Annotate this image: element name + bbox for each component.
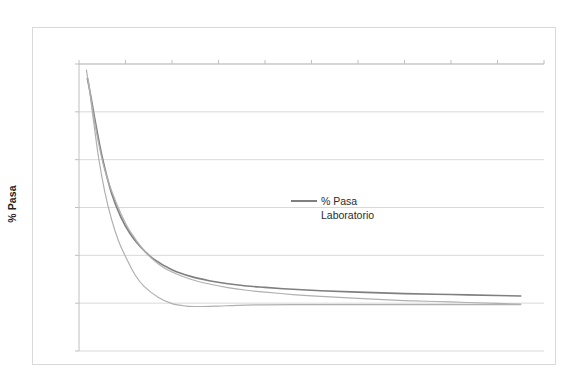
data-series-paths [86, 70, 520, 307]
legend-entry: % Pasa [291, 194, 401, 208]
legend-label-line2: Laboratorio [291, 208, 401, 222]
series-line-envelope-upper [86, 70, 520, 304]
y-axis-title: % Pasa [6, 174, 18, 234]
legend-label-line1: % Pasa [321, 194, 357, 208]
legend-line-swatch-icon [291, 200, 317, 202]
series-line-pasa-laboratorio [87, 78, 520, 296]
chart-legend: % Pasa Laboratorio [291, 194, 401, 222]
chart-plot-frame: % Pasa Laboratorio [32, 27, 556, 365]
